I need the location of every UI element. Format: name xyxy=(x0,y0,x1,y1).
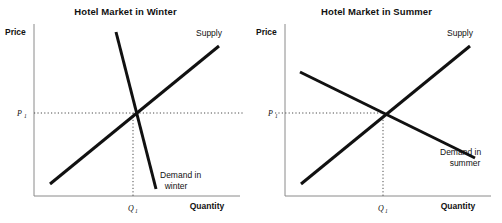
panel-winter: Hotel Market in Winter Price Quantity P … xyxy=(0,0,251,223)
plot-summer: Price Quantity P 1 Q 1 Supply Demand in … xyxy=(251,0,502,223)
demand-curve-winter xyxy=(116,32,156,189)
price-tick-subscript-summer: 1 xyxy=(275,113,278,119)
demand-label-winter-line1: Demand in xyxy=(160,170,201,180)
demand-label-summer-line2: summer xyxy=(450,158,481,168)
demand-label-winter-line2: winter xyxy=(164,181,188,191)
supply-label-summer: Supply xyxy=(447,28,474,38)
y-axis-label-summer: Price xyxy=(256,27,277,37)
supply-curve-winter xyxy=(50,46,219,184)
price-tick-winter: P xyxy=(16,109,22,118)
quantity-tick-subscript-summer: 1 xyxy=(385,208,388,214)
quantity-tick-summer: Q xyxy=(378,204,384,213)
quantity-tick-winter: Q xyxy=(128,204,134,213)
price-tick-subscript-winter: 1 xyxy=(24,113,27,119)
x-axis-label-summer: Quantity xyxy=(441,201,476,211)
x-axis-label-winter: Quantity xyxy=(190,201,225,211)
economics-figure: Hotel Market in Winter Price Quantity P … xyxy=(0,0,502,223)
panel-summer: Hotel Market in Summer Price Quantity P … xyxy=(251,0,502,223)
y-axis-label-winter: Price xyxy=(5,27,26,37)
demand-curve-summer xyxy=(300,72,475,158)
plot-winter: Price Quantity P 1 Q 1 Supply Demand in … xyxy=(0,0,251,223)
supply-label-winter: Supply xyxy=(196,28,223,38)
quantity-tick-subscript-winter: 1 xyxy=(135,208,138,214)
demand-label-summer-line1: Demand in xyxy=(440,147,481,157)
price-tick-summer: P xyxy=(267,109,273,118)
